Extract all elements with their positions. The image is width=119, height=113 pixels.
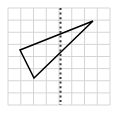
figure-canvas [0, 0, 119, 113]
geometry-figure [0, 0, 119, 113]
